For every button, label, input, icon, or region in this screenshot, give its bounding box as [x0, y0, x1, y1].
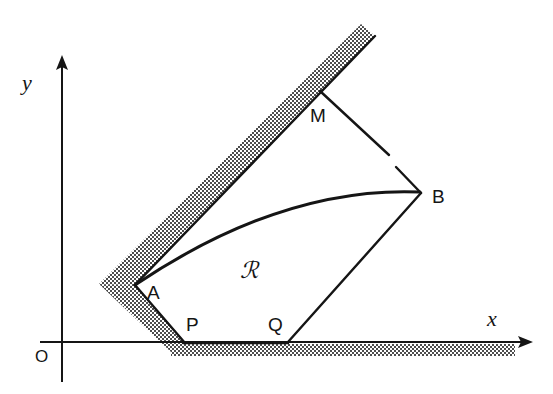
ray-A-to-M-extended [135, 36, 375, 285]
point-label-b: B [432, 187, 445, 206]
point-label-q: Q [268, 315, 283, 334]
band-below-x-axis [171, 344, 515, 356]
point-label-m: M [310, 106, 326, 125]
segment-M-to-B-lower [396, 167, 421, 193]
point-label-a: A [147, 283, 160, 302]
region-label-script-r: ℛ [240, 259, 258, 282]
geometry-figure: y x O A B M P Q ℛ [0, 0, 553, 394]
outline-group [135, 36, 421, 343]
origin-label: O [35, 348, 48, 365]
hatched-band-group [99, 24, 515, 356]
x-axis-label: x [487, 308, 497, 330]
point-label-p: P [186, 315, 199, 334]
band-along-ray-A-M [99, 24, 375, 285]
segment-M-to-B-upper [320, 91, 389, 155]
segment-B-to-Q [288, 193, 421, 342]
y-axis-label: y [22, 72, 32, 94]
